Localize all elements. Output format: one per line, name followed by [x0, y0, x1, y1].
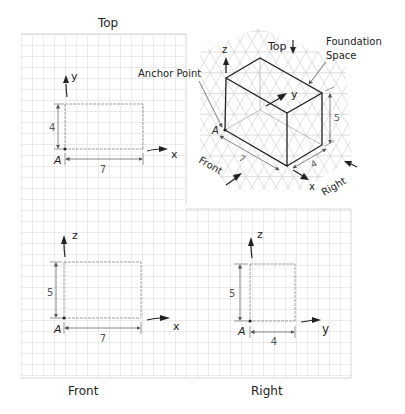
top-view-title: Top: [97, 16, 118, 30]
right-view-height-value: 5: [229, 288, 235, 299]
right-view-z-label: z: [257, 228, 263, 241]
top-view-x-label: x: [171, 148, 178, 161]
top-view-y-label: y: [71, 70, 78, 83]
right-view-arrow-icon: [344, 161, 357, 167]
iso-z-label: z: [222, 44, 227, 55]
front-view-z-label: z: [72, 229, 78, 242]
bottom-views-grid: [21, 205, 351, 378]
front-view-anchor-label: A: [53, 323, 62, 336]
anchor-point-dot: [248, 319, 251, 322]
anchor-point-dot: [223, 128, 226, 131]
foundation-space-label-1: Foundation: [326, 36, 382, 47]
front-view-height-value: 5: [47, 287, 53, 298]
right-view-title: Right: [251, 384, 283, 398]
front-view-title: Front: [68, 384, 99, 398]
top-view-anchor-label: A: [53, 154, 62, 167]
right-view-width-value: 4: [271, 336, 277, 347]
iso-x-label: x: [309, 181, 315, 192]
top-view-width-value: 7: [100, 164, 106, 175]
iso-y-label: y: [291, 88, 298, 101]
right-view-anchor-label: A: [237, 325, 246, 338]
top-view-height-value: 4: [49, 122, 55, 133]
foundation-space-label-2: Space: [326, 50, 356, 61]
iso-top-label: Top: [267, 40, 287, 53]
anchor-point-dot: [62, 316, 65, 319]
top-view-grid: [21, 34, 186, 205]
anchor-point-label: Anchor Point: [138, 68, 201, 79]
iso-right-label: Right: [320, 175, 348, 198]
front-view-x-label: x: [173, 320, 180, 333]
iso-anchor-label: A: [211, 125, 219, 136]
right-view-y-label: y: [322, 322, 329, 336]
front-view-width-value: 7: [100, 333, 106, 344]
iso-height-value: 5: [334, 113, 340, 123]
orthographic-diagram: Top y x 4 7 A z: [0, 0, 405, 414]
